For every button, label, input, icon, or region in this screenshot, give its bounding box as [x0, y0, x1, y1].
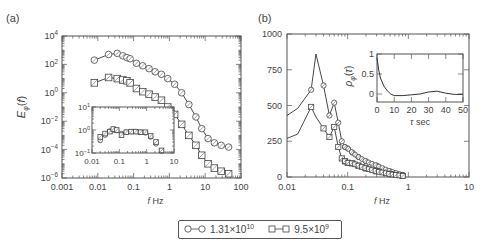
panel-b: (b)100075050025000.010.1110f Hz010203040…: [258, 12, 474, 206]
x-tick-label: 10: [464, 182, 474, 192]
y-tick-label: 100: [44, 86, 58, 98]
x-tick-label: 100: [233, 182, 248, 192]
legend-item-circle: 1.31×1010: [184, 223, 254, 235]
inset-y-tick-label: 101: [78, 102, 90, 112]
panel-a: (a)0.0010.010.111010010410210010−210−410…: [6, 12, 249, 206]
inset-y-tick-label: 100: [78, 125, 90, 135]
y-tick-label: 500: [267, 101, 282, 111]
circle-marker-icon: [184, 224, 206, 234]
inset-x-tick-label: 50: [458, 105, 468, 115]
inset-y-tick-label: 0.5: [361, 69, 374, 79]
panel-label: (a): [6, 12, 19, 24]
legend: 1.31×1010 9.5×109: [178, 220, 342, 239]
x-tick-label: 1: [167, 182, 172, 192]
inset-frame: [377, 54, 463, 102]
y-tick-label: 1000: [262, 29, 282, 39]
x-tick-label: 0.01: [89, 182, 107, 192]
inset-x-tick-label: 0: [374, 105, 379, 115]
y-tick-label: 102: [44, 58, 58, 70]
y-tick-label: 250: [267, 136, 282, 146]
inset-x-tick-label: 10: [170, 157, 179, 166]
legend-label: 1.31×1010: [210, 223, 254, 235]
panel-label: (b): [258, 12, 271, 24]
y-tick-label: 10−2: [41, 115, 59, 127]
x-axis-label: f Hz: [147, 196, 164, 206]
y-tick-label: 10−4: [41, 143, 59, 155]
legend-label: 9.5×109: [294, 223, 329, 235]
figure-canvas: (a)0.0010.010.111010010410210010−210−410…: [0, 0, 484, 250]
inset-y-tick-label: 0: [369, 89, 374, 99]
inset-x-tick-label: 20: [406, 105, 416, 115]
x-tick-label: 10: [200, 182, 210, 192]
inset-x-axis-label: τ sec: [410, 117, 430, 127]
y-tick-label: 750: [267, 65, 282, 75]
x-axis-label: f Hz: [374, 196, 391, 206]
inset-x-tick-label: 10: [389, 105, 399, 115]
x-tick-label: 0.01: [278, 182, 296, 192]
y-tick-label: 104: [44, 29, 58, 41]
square-marker-icon: [268, 224, 290, 234]
x-tick-label: 0.1: [127, 182, 140, 192]
inset-x-tick-label: 30: [424, 105, 434, 115]
inset-y-axis-label: ρφ(τ): [343, 66, 357, 88]
x-tick-label: 0.1: [341, 182, 354, 192]
x-tick-label: 1: [406, 182, 411, 192]
inset-x-tick-label: 40: [441, 105, 451, 115]
y-tick-label: 0: [277, 172, 282, 182]
inset-x-tick-label: 1: [144, 157, 149, 166]
inset-x-tick-label: 0.01: [84, 157, 100, 166]
legend-item-square: 9.5×109: [268, 223, 329, 235]
inset-y-tick-label: 1: [369, 49, 374, 59]
inset-x-tick-label: 0.1: [114, 157, 126, 166]
x-tick-label: 0.001: [51, 182, 74, 192]
y-axis-label: Eφ(f): [15, 96, 30, 118]
